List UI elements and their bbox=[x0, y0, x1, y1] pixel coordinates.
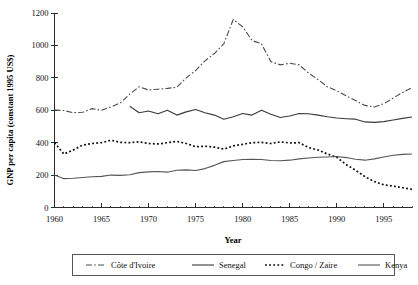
x-axis-title: Year bbox=[225, 235, 242, 245]
x-axis-tick-labels: 19601965197019751980198519901995 bbox=[46, 214, 392, 224]
series-lines bbox=[55, 19, 413, 189]
y-axis-tick-labels: 020040060080010001200 bbox=[32, 8, 49, 213]
y-tick-label: 600 bbox=[36, 105, 49, 115]
x-tick-label: 1995 bbox=[375, 214, 392, 224]
y-tick-label: 800 bbox=[36, 73, 49, 83]
x-tick-label: 1975 bbox=[187, 214, 204, 224]
x-axis-ticks bbox=[55, 203, 413, 208]
series-line-congo-zaire bbox=[55, 140, 413, 189]
x-tick-label: 1965 bbox=[93, 214, 110, 224]
chart-figure: GNP per capita (constant 1995 US$) 02004… bbox=[0, 0, 418, 285]
series-line-senegal bbox=[130, 106, 412, 122]
legend-label-senegal: Senegal bbox=[219, 260, 247, 270]
x-tick-label: 1960 bbox=[46, 214, 63, 224]
x-tick-label: 1985 bbox=[281, 214, 298, 224]
y-tick-label: 0 bbox=[44, 203, 48, 213]
legend-label-kenya: Kenya bbox=[385, 260, 407, 270]
y-tick-label: 1200 bbox=[32, 8, 49, 18]
y-axis-title: GNP per capita (constant 1995 US$) bbox=[5, 54, 15, 185]
series-line-kenya bbox=[55, 154, 413, 179]
x-tick-label: 1980 bbox=[234, 214, 251, 224]
y-tick-label: 200 bbox=[36, 170, 49, 180]
legend-label-c-te-d-ivoire: Côte d'Ivoire bbox=[111, 260, 155, 270]
y-tick-label: 400 bbox=[36, 138, 49, 148]
series-line-c-te-d-ivoire bbox=[55, 19, 413, 112]
legend: Côte d'IvoireSenegalCongo / ZaireKenya bbox=[86, 260, 407, 270]
x-tick-label: 1990 bbox=[328, 214, 345, 224]
legend-label-congo-zaire: Congo / Zaire bbox=[290, 260, 337, 270]
gnp-per-capita-line-chart: GNP per capita (constant 1995 US$) 02004… bbox=[0, 0, 418, 285]
y-tick-label: 1000 bbox=[32, 40, 49, 50]
x-tick-label: 1970 bbox=[140, 214, 157, 224]
